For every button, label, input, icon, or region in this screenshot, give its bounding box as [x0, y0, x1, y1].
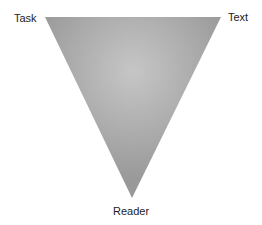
vertex-label-reader: Reader [113, 205, 149, 217]
triangle-diagram [0, 0, 262, 225]
inverted-triangle [45, 17, 221, 198]
vertex-label-task: Task [14, 12, 37, 24]
vertex-label-text: Text [228, 11, 248, 23]
